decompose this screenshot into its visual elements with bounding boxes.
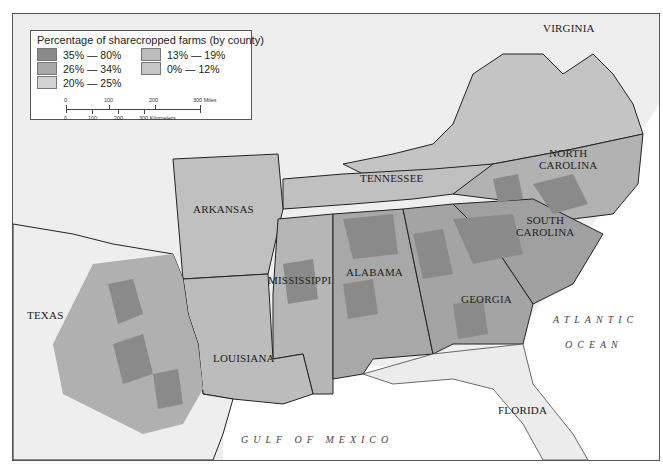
scale-km-0: 0 (64, 115, 67, 121)
legend-item-0-12: 0% — 12% (141, 62, 220, 75)
label-arkansas: ARKANSAS (193, 203, 254, 215)
scale-tick (109, 105, 110, 109)
scale-tick (144, 110, 145, 114)
state-arkansas (173, 154, 283, 279)
scale-tick (92, 110, 93, 114)
scale-km-200: 200 (114, 115, 123, 121)
scale-tick (66, 105, 67, 113)
label-mississippi: MISSISSIPPI (268, 274, 331, 286)
label-north-carolina: NORTH CAROLINA (539, 147, 597, 171)
label-south-carolina-line1: SOUTH (516, 214, 574, 226)
scale-tick (200, 105, 201, 113)
scale-miles-200: 200 (149, 97, 158, 103)
label-virginia: VIRGINIA (543, 22, 595, 34)
scale-tick (155, 105, 156, 109)
legend-swatch (37, 76, 57, 89)
legend: Percentage of sharecropped farms (by cou… (30, 30, 252, 120)
legend-label: 20% — 25% (63, 77, 121, 89)
label-louisiana: LOUISIANA (213, 352, 275, 364)
legend-label: 0% — 12% (167, 63, 220, 75)
scale-bar (66, 109, 201, 110)
legend-swatch (37, 62, 57, 75)
scale-tick (118, 110, 119, 114)
legend-swatch (141, 62, 161, 75)
legend-item-13-19: 13% — 19% (141, 48, 225, 61)
legend-label: 26% — 34% (63, 63, 121, 75)
legend-item-26-34: 26% — 34% (37, 62, 121, 75)
label-south-carolina-line2: CAROLINA (516, 226, 574, 238)
label-florida: FLORIDA (498, 404, 547, 416)
legend-swatch (141, 48, 161, 61)
label-ocean: OCEAN (565, 339, 623, 350)
label-atlantic: ATLANTIC (553, 314, 638, 325)
label-south-carolina: SOUTH CAROLINA (516, 214, 574, 238)
label-north-carolina-line1: NORTH (539, 147, 597, 159)
scale-miles-100: 100 (104, 97, 113, 103)
scale-km-100: 100 (88, 115, 97, 121)
scale-miles-0: 0 (64, 97, 67, 103)
scale-km-300: 300 Kilometers (139, 115, 176, 121)
label-gulf-of-mexico: GULF OF MEXICO (241, 434, 393, 445)
label-georgia: GEORGIA (461, 293, 512, 305)
legend-item-20-25: 20% — 25% (37, 76, 121, 89)
legend-item-35-80: 35% — 80% (37, 48, 121, 61)
legend-swatch (37, 48, 57, 61)
legend-title: Percentage of sharecropped farms (by cou… (37, 34, 264, 46)
label-north-carolina-line2: CAROLINA (539, 159, 597, 171)
scale-miles-300: 300 Miles (193, 97, 217, 103)
label-texas: TEXAS (27, 309, 63, 321)
label-tennessee: TENNESSEE (360, 172, 424, 184)
label-alabama: ALABAMA (346, 266, 403, 278)
legend-label: 35% — 80% (63, 49, 121, 61)
legend-label: 13% — 19% (167, 49, 225, 61)
